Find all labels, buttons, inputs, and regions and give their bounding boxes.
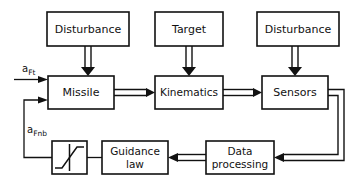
connector-target-to-kinematics [182, 46, 196, 76]
block-guidance-law-label-line2: law [126, 158, 144, 170]
block-kinematics-label: Kinematics [160, 86, 218, 98]
block-missile: Missile [48, 76, 114, 109]
diagram-canvas: Disturbance Target Disturbance Missile K… [0, 0, 358, 186]
block-disturbance-right: Disturbance [257, 12, 339, 46]
block-guidance-law: Guidance law [102, 141, 168, 174]
block-guidance-law-label-line1: Guidance [110, 145, 160, 157]
block-sensors: Sensors [262, 76, 328, 109]
block-disturbance-right-label: Disturbance [265, 23, 332, 36]
signal-a-fnb-subscript: Fnb [33, 129, 47, 138]
block-data-processing-label-line1: Data [227, 145, 252, 157]
block-diagram: Disturbance Target Disturbance Missile K… [0, 0, 358, 186]
connector-input-to-missile [14, 76, 48, 83]
block-saturation: saturation-nonlinearity [52, 141, 87, 174]
svg-text:aFnb: aFnb [27, 124, 47, 138]
block-target-label: Target [171, 23, 207, 36]
block-kinematics: Kinematics [155, 76, 223, 109]
block-disturbance-left-label: Disturbance [55, 23, 122, 36]
block-target: Target [155, 12, 223, 46]
signal-a-ft-subscript: Ft [28, 68, 35, 77]
signal-label-a-fnb: aFnb [27, 124, 47, 138]
block-data-processing: Data processing [206, 141, 274, 174]
connector-data-processing-to-guidance-law [168, 153, 206, 162]
svg-text:aFt: aFt [22, 63, 35, 77]
connector-disturbance-right-to-sensors [288, 46, 302, 76]
connector-kinematics-to-sensors [223, 88, 262, 97]
block-missile-label: Missile [63, 86, 100, 99]
block-sensors-label: Sensors [273, 86, 317, 99]
signal-label-a-ft: aFt [22, 63, 35, 77]
connector-missile-to-kinematics [114, 88, 155, 97]
block-data-processing-label-line2: processing [212, 158, 269, 170]
block-disturbance-left: Disturbance [47, 12, 129, 46]
connector-disturbance-left-to-missile [81, 46, 95, 76]
